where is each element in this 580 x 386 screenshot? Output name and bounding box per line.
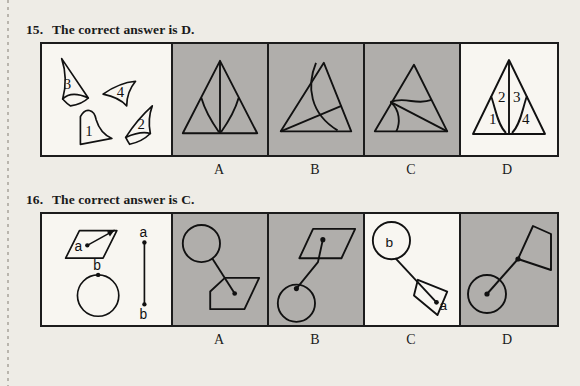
region-label-4: 4 [522, 111, 530, 127]
option-label-row-15: A B C D [40, 157, 559, 181]
option-panel-16-c[interactable]: b a [365, 214, 461, 325]
question-answer-text-15: The correct answer is D. [52, 22, 195, 37]
option-a-segment [212, 258, 235, 293]
option-panel-16-a[interactable] [173, 214, 269, 325]
question-number-16: 16. [26, 192, 52, 208]
question-heading-15: 15.The correct answer is D. [26, 22, 560, 38]
option-panel-15-a[interactable] [173, 44, 269, 155]
option-label-16-a: A [171, 331, 267, 349]
option-a-circle [183, 225, 220, 262]
option-b-triangle [281, 63, 352, 132]
piece-label-3: 3 [64, 76, 71, 92]
stem-circle [77, 275, 118, 316]
option-c-segment [395, 258, 436, 302]
question-answer-text-16: The correct answer is C. [52, 192, 195, 207]
scanned-page: 15.The correct answer is D. 3 4 1 [0, 0, 580, 386]
option-b-segment [296, 240, 322, 289]
answer-panel-row-15: 3 4 1 2 [40, 42, 559, 157]
stem-panel-15: 3 4 1 2 [42, 44, 173, 155]
page-binding-artifact [7, 0, 9, 386]
question-block-15: 15.The correct answer is D. 3 4 1 [26, 22, 560, 181]
piece-label-4: 4 [117, 84, 125, 100]
option-a-arc-left [201, 98, 219, 132]
option-label-16-c: C [363, 331, 459, 349]
option-panel-15-d[interactable]: 1 2 3 4 [461, 44, 557, 155]
option-c-triangle [375, 65, 447, 132]
stem-panel-16: a b a b [42, 214, 173, 325]
option-c-label-b: b [386, 235, 394, 250]
option-label-15-b: B [267, 161, 363, 179]
option-b-attach-point [294, 286, 299, 291]
option-label-16-b: B [267, 331, 363, 349]
piece-label-1: 1 [85, 123, 92, 139]
answer-panel-row-16: a b a b [40, 212, 559, 327]
option-d-centre-point [484, 291, 489, 296]
option-b-curve [311, 63, 337, 131]
option-c-label-a: a [439, 298, 447, 313]
option-label-15-a: A [171, 161, 267, 179]
option-panel-16-d[interactable] [461, 214, 557, 325]
option-c-curve-upper [390, 100, 431, 102]
question-heading-16: 16.The correct answer is C. [26, 192, 560, 208]
option-panel-15-c[interactable] [365, 44, 461, 155]
option-label-15-c: C [363, 161, 459, 179]
option-label-row-16: A B C D [40, 327, 559, 351]
option-b-parallelogram [299, 229, 355, 258]
option-label-15-d: D [459, 161, 555, 179]
question-block-16: 16.The correct answer is C. a b [26, 192, 560, 351]
option-d-parallelogram [518, 226, 551, 270]
stem-segment-endpoint-b [142, 302, 146, 306]
region-label-1: 1 [489, 111, 497, 127]
stem-segment-label-b: b [139, 307, 147, 322]
stem-label-b: b [93, 258, 101, 273]
piece-label-2: 2 [138, 116, 145, 132]
stem-point-b [96, 273, 100, 277]
option-panel-15-b[interactable] [269, 44, 365, 155]
region-label-2: 2 [498, 89, 506, 105]
stem-segment-endpoint-a [142, 240, 146, 244]
region-label-3: 3 [513, 89, 521, 105]
option-a-point [232, 291, 237, 296]
option-a-arc-right [221, 98, 239, 132]
option-c-point-a [434, 300, 439, 305]
option-label-16-d: D [459, 331, 555, 349]
question-number-15: 15. [26, 22, 52, 38]
stem-label-a: a [74, 239, 82, 254]
piece-3-tail [63, 98, 89, 106]
option-panel-16-b[interactable] [269, 214, 365, 325]
stem-segment-label-a: a [139, 225, 147, 240]
